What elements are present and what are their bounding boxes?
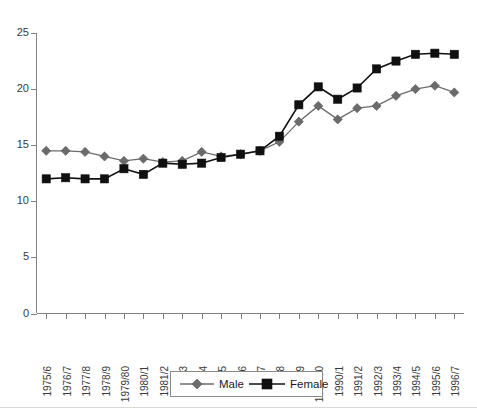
data-point-female: [236, 150, 244, 158]
data-point-female: [314, 83, 322, 91]
data-point-female: [372, 65, 380, 73]
x-tick-label: 1991/2: [353, 366, 364, 397]
data-point-male: [450, 88, 459, 97]
x-tick-label: 1977/8: [81, 366, 92, 397]
data-point-male: [100, 152, 109, 161]
data-point-female: [392, 57, 400, 65]
x-tick-label: 1996/7: [450, 366, 461, 397]
legend-label-male: Male: [219, 378, 244, 390]
data-point-male: [42, 146, 51, 155]
data-point-male: [80, 147, 89, 156]
data-point-male: [61, 146, 70, 155]
data-point-female: [431, 49, 439, 57]
y-axis-ticks: [31, 34, 37, 315]
data-point-female: [178, 160, 186, 168]
x-tick-label: 1980/1: [139, 366, 150, 397]
y-tick-label: 5: [23, 250, 29, 262]
x-tick-label: 1975/6: [42, 366, 53, 397]
y-tick-label: 10: [17, 194, 29, 206]
data-point-female: [353, 84, 361, 92]
data-point-male: [119, 156, 128, 165]
series-markers-female: [42, 49, 458, 183]
data-point-male: [411, 85, 420, 94]
x-axis-ticks: [47, 314, 455, 320]
data-point-male: [333, 115, 342, 124]
data-point-male: [430, 81, 439, 90]
data-point-female: [275, 132, 283, 140]
x-tick-label: 1995/6: [431, 366, 442, 397]
legend-label-female: Female: [290, 378, 328, 390]
data-point-female: [42, 175, 50, 183]
y-tick-label: 25: [17, 26, 29, 38]
data-point-male: [391, 91, 400, 100]
x-tick-label: 1978/9: [101, 366, 112, 397]
data-point-female: [139, 170, 147, 178]
series-line-female: [46, 53, 454, 179]
data-point-female: [295, 101, 303, 109]
series-markers-male: [42, 81, 459, 167]
x-tick-label: 1993/4: [392, 366, 403, 397]
legend-marker-female-square-icon: [262, 379, 272, 389]
data-point-female: [81, 175, 89, 183]
data-point-female: [62, 174, 70, 182]
y-tick-label: 20: [17, 82, 29, 94]
line-chart: 0510152025 1975/61976/71977/81978/91979/…: [0, 0, 477, 409]
data-point-male: [353, 104, 362, 113]
chart-legend: Male Female: [171, 372, 329, 397]
data-point-male: [197, 147, 206, 156]
x-tick-label: 1979/80: [120, 366, 131, 403]
y-axis-labels: 0510152025: [17, 26, 29, 319]
data-point-female: [334, 95, 342, 103]
data-point-female: [159, 159, 167, 167]
data-point-female: [217, 153, 225, 161]
y-tick-label: 0: [23, 307, 29, 319]
x-tick-label: 1994/5: [411, 366, 422, 397]
data-point-female: [100, 175, 108, 183]
chart-canvas: 0510152025 1975/61976/71977/81978/91979/…: [0, 0, 477, 409]
data-point-female: [450, 50, 458, 58]
y-tick-label: 15: [17, 138, 29, 150]
x-tick-label: 1990/1: [334, 366, 345, 397]
data-point-male: [139, 154, 148, 163]
data-point-male: [372, 101, 381, 110]
x-tick-label: 1976/7: [62, 366, 73, 397]
data-point-female: [120, 165, 128, 173]
data-point-female: [198, 159, 206, 167]
data-point-female: [411, 50, 419, 58]
x-tick-label: 1981/2: [159, 366, 170, 397]
x-tick-label: 1992/3: [373, 366, 384, 397]
data-point-female: [256, 147, 264, 155]
